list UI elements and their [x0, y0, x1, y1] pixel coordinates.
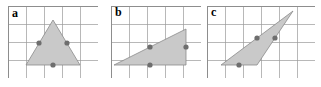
panel-b-point-3 — [147, 62, 152, 67]
panel-a-label: a — [12, 7, 18, 19]
panel-b-canvas — [111, 6, 201, 78]
panel-c — [207, 6, 315, 78]
figure-root: abc — [0, 0, 321, 87]
panel-b-point-1 — [147, 44, 152, 49]
panel-b-background — [111, 6, 201, 78]
panel-a — [8, 6, 98, 78]
panel-c-point-1 — [254, 35, 259, 40]
panel-a-point-1 — [36, 40, 41, 45]
panel-c-point-3 — [236, 62, 241, 67]
panel-b-label: b — [115, 6, 122, 18]
panel-a-point-3 — [50, 62, 55, 67]
panel-c-canvas — [207, 6, 315, 78]
panel-a-canvas — [8, 6, 98, 78]
panel-b — [111, 6, 201, 78]
panel-c-label: c — [211, 6, 216, 18]
panel-a-point-2 — [64, 40, 69, 45]
panel-b-point-2 — [183, 44, 188, 49]
panel-c-point-2 — [272, 35, 277, 40]
